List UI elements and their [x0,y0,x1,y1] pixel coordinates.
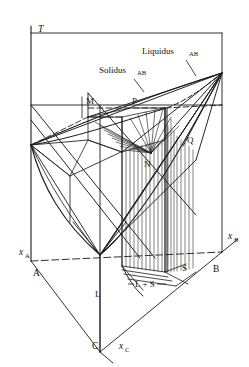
vertex-a-label: A [33,268,40,278]
xc-axis-arrow [100,352,113,363]
xc-axis-label: x [118,341,124,351]
xb-axis-label: x [227,231,233,241]
xc-axis-subscript: C [125,346,130,353]
base-edge-ac [31,261,100,352]
xa-axis-annotation: x A [18,247,30,259]
region-liquid-plus-solid-annotation: L + S [128,279,166,289]
xa-axis-label: x [18,247,24,257]
valley-line-4 [73,222,100,255]
region-liquid-label: L [95,289,101,299]
tie-plane-left-rib-3 [70,140,88,176]
vertex-c-label: C [92,341,98,351]
solidus-ab-annotation: Solidus AB [99,65,147,92]
valley-line-1 [31,145,100,255]
xa-axis-subscript: A [25,252,30,259]
base-edge-ab [31,252,222,261]
point-p-label: P [132,96,137,106]
point-n-label: N [144,159,151,169]
tie-plane-left-lower [31,140,122,152]
region-solid-label: S [182,263,187,273]
point-q-label: Q [187,135,194,145]
liquidus-ab-subscript: AB [189,50,199,57]
vertex-b-label: B [213,264,219,274]
solidus-ab-label: Solidus [99,65,127,75]
phase-diagram-figure: T Liquidus AB Solidus AB M P N Q x A x B… [0,0,249,367]
liquidus-ab-leader-line [186,60,196,76]
xc-axis-annotation: x C [118,341,130,353]
liquidus-ab-annotation: Liquidus AB [142,46,199,76]
xb-axis-annotation: x B [227,231,239,243]
temperature-axis-label: T [38,24,44,34]
xb-axis-subscript: B [234,236,239,243]
solidus-ab-leader-line [134,79,144,92]
region-liquid-plus-solid-label: L + S [135,279,155,289]
point-m-label: M [86,96,94,106]
base-solidus-boundary [165,272,188,284]
tie-plane-left-rib-1 [31,145,70,176]
phase-diagram-canvas: T Liquidus AB Solidus AB M P N Q x A x B… [0,0,249,367]
isothermal-slab-box-left [88,117,122,152]
base-edge-cb [100,252,222,352]
solidus-ab-subscript: AB [137,69,147,76]
liquidus-ab-label: Liquidus [142,46,174,56]
